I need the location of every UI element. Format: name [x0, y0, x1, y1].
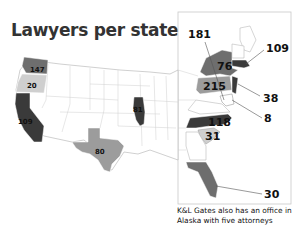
state-massachusetts: [232, 60, 250, 68]
label-north-carolina: 118: [208, 116, 231, 129]
state-new-jersey: [232, 76, 238, 94]
label-washington: 147: [30, 66, 45, 74]
label-texas: 80: [95, 148, 105, 156]
label-illinois: 81: [133, 106, 143, 114]
label-new-jersey: 38: [263, 92, 278, 105]
label-oregon: 20: [27, 82, 37, 90]
footnote: K&L Gates also has an office in Alaska w…: [177, 206, 297, 226]
label-south-carolina: 31: [205, 130, 220, 143]
label-pennsylvania: 215: [203, 80, 226, 93]
label-dc-maryland: 181: [188, 28, 211, 41]
label-new-york: 76: [217, 60, 233, 73]
label-florida: 30: [264, 188, 280, 201]
state-florida: [186, 162, 218, 198]
us-map: 147 20 109 80 81 76 215 181 109 38 8 118…: [0, 0, 298, 231]
label-delaware: 8: [264, 112, 272, 125]
label-massachusetts: 109: [266, 42, 289, 55]
label-california: 109: [18, 118, 33, 126]
state-vermont-nh: [232, 44, 244, 58]
